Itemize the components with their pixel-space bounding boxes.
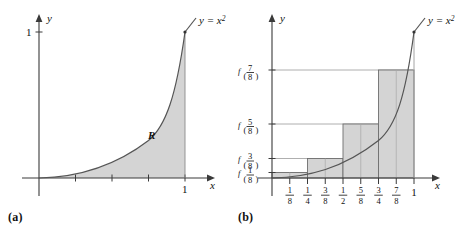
svg-text:4: 4	[305, 196, 310, 206]
panel-b-plot: y x y = x2 1 8 1 4 3 8 1	[230, 0, 461, 238]
curve-extension	[414, 18, 425, 32]
curve-endpoint-dot	[412, 30, 415, 33]
svg-text:3: 3	[376, 185, 380, 195]
svg-text:8: 8	[359, 196, 363, 206]
svg-text:7: 7	[248, 63, 252, 73]
svg-text:): )	[256, 160, 259, 170]
curve-label-exponent: 2	[451, 14, 455, 23]
curve-extension	[185, 18, 196, 32]
svg-text:(: (	[244, 71, 247, 81]
x-tick-label-7-8: 7 8	[392, 185, 401, 206]
svg-text:): )	[256, 125, 259, 135]
svg-text:1: 1	[305, 185, 309, 195]
panel-a: y x 1 1 R y = x2 (a)	[0, 0, 230, 238]
y-axis-label: y	[46, 12, 52, 24]
svg-text:8: 8	[394, 196, 398, 206]
svg-text:5: 5	[248, 117, 252, 127]
curve-label: y = x2	[427, 14, 455, 27]
x-axis-label: x	[209, 179, 215, 191]
svg-text:3: 3	[323, 185, 327, 195]
region-label: R	[147, 129, 155, 141]
curve-label: y = x2	[198, 14, 226, 27]
curve-endpoint-dot	[183, 30, 186, 33]
svg-text:2: 2	[341, 196, 345, 206]
panel-b: y x y = x2 1 8 1 4 3 8 1	[230, 0, 461, 238]
svg-text:): )	[256, 174, 259, 184]
curve-label-text: y = x	[427, 14, 451, 26]
region-shading	[39, 32, 185, 178]
svg-text:(: (	[244, 160, 247, 170]
x-axis-label: x	[434, 179, 440, 191]
y-axis-arrow	[269, 14, 276, 22]
svg-text:(: (	[244, 174, 247, 184]
panel-a-plot: y x 1 1 R y = x2	[0, 0, 230, 238]
x-tick-label-3-4: 3 4	[374, 185, 383, 206]
svg-text:8: 8	[248, 126, 252, 136]
x-tick-label-one: 1	[182, 183, 188, 195]
svg-text:f: f	[238, 120, 242, 130]
svg-text:8: 8	[323, 196, 327, 206]
figure-container: y x 1 1 R y = x2 (a)	[0, 0, 461, 238]
y-axis-arrow	[36, 14, 43, 22]
panel-b-caption: (b)	[238, 210, 253, 225]
y-axis-label: y	[279, 12, 285, 24]
y-tick-label-f-7-8: f ( 7 8 )	[238, 63, 259, 83]
svg-text:1: 1	[248, 165, 252, 175]
svg-text:1: 1	[288, 185, 292, 195]
x-tick-label-1-4: 1 4	[303, 185, 312, 206]
x-tick-label-3-8: 3 8	[321, 185, 330, 206]
svg-text:1: 1	[341, 185, 345, 195]
x-tick-label-1-2: 1 2	[339, 185, 348, 206]
svg-text:8: 8	[248, 175, 252, 185]
svg-text:5: 5	[359, 185, 363, 195]
svg-text:(: (	[244, 125, 247, 135]
svg-text:4: 4	[376, 196, 381, 206]
x-tick-label-1: 1	[411, 186, 417, 198]
svg-text:8: 8	[248, 72, 252, 82]
svg-text:8: 8	[288, 196, 292, 206]
curve-label-text: y = x	[198, 14, 222, 26]
svg-text:3: 3	[248, 151, 252, 161]
panel-a-caption: (a)	[8, 210, 23, 225]
svg-text:f: f	[238, 168, 242, 178]
svg-text:7: 7	[394, 185, 398, 195]
x-tick-label-5-8: 5 8	[357, 185, 366, 206]
y-tick-label-f-5-8: f ( 5 8 )	[238, 117, 259, 137]
svg-text:f: f	[238, 66, 242, 76]
svg-text:): )	[256, 71, 259, 81]
curve-label-exponent: 2	[222, 14, 226, 23]
x-tick-label-1-8: 1 8	[286, 185, 295, 206]
svg-text:f: f	[238, 154, 242, 164]
y-tick-label-one: 1	[26, 26, 32, 38]
